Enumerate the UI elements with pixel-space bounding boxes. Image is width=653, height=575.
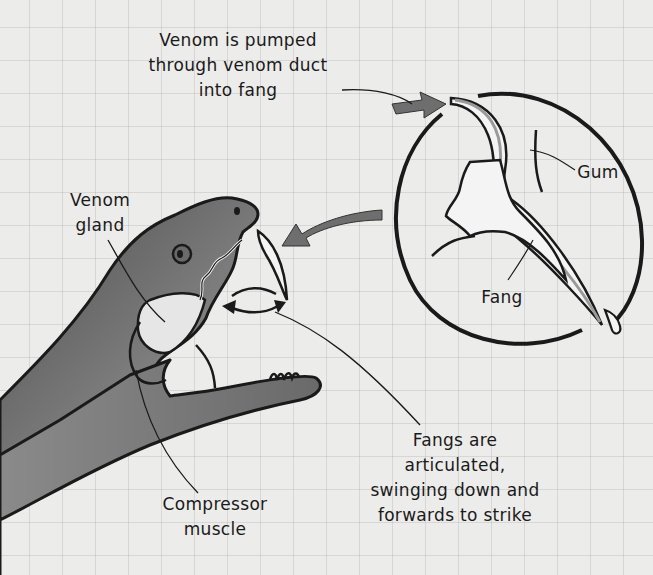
label-venom-gland: Venom gland (60, 188, 140, 238)
label-fang: Fang (462, 285, 542, 310)
venom-flow-arrow-icon (392, 92, 446, 118)
magnify-arrow-icon (282, 210, 382, 246)
venom-droplet-icon (605, 310, 620, 333)
label-compressor-muscle: Compressor muscle (140, 492, 290, 542)
venom-gland-shape (138, 293, 205, 353)
label-fangs-articulated: Fangs are articulated, swinging down and… (340, 428, 570, 528)
label-venom-pumped: Venom is pumped through venom duct into … (118, 28, 358, 103)
label-gum: Gum (568, 160, 628, 185)
